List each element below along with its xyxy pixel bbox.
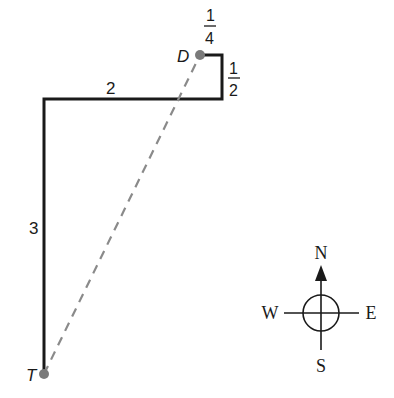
- svg-text:2: 2: [229, 82, 238, 99]
- compass-rose: N S W E: [262, 243, 377, 376]
- point-t: [39, 369, 49, 379]
- point-d: [195, 50, 205, 60]
- walking-path: [44, 55, 222, 374]
- displacement-dashed-line: [44, 55, 200, 374]
- north-arrow-icon: [315, 265, 327, 281]
- compass-west-label: W: [262, 303, 279, 323]
- segment-label-north-leg: 2: [106, 79, 115, 98]
- point-t-label: T: [26, 366, 38, 385]
- compass-south-label: S: [316, 356, 326, 376]
- fraction-quarter: 1 4: [204, 7, 216, 47]
- svg-text:1: 1: [229, 60, 238, 77]
- fraction-half: 1 2: [228, 60, 240, 99]
- svg-text:1: 1: [206, 7, 215, 24]
- svg-text:4: 4: [205, 30, 214, 47]
- point-d-label: D: [177, 47, 189, 66]
- displacement-diagram: D T 3 2 1 2 1 4 N S W E: [0, 0, 394, 398]
- compass-east-label: E: [366, 303, 377, 323]
- compass-north-label: N: [315, 243, 328, 263]
- segment-label-west-leg: 3: [29, 219, 38, 238]
